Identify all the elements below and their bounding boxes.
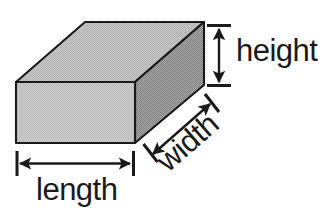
width-tick-upper <box>205 94 219 112</box>
height-dimension <box>207 26 231 86</box>
length-label: length <box>36 172 117 207</box>
prism-solid <box>16 22 204 143</box>
prism-diagram: height length width <box>0 0 333 224</box>
diagram-canvas: height length width <box>0 0 333 224</box>
height-label: height <box>236 33 318 68</box>
prism-front-face <box>16 82 135 143</box>
